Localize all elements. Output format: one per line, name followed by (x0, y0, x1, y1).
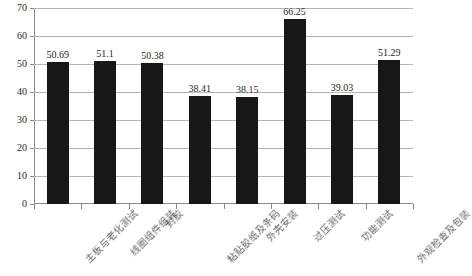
x-axis-category-label: 外观检查及包装 (415, 208, 472, 265)
bar (189, 96, 211, 204)
y-axis-tick-label: 70 (17, 3, 27, 13)
bar-group: 39.03 (318, 8, 365, 204)
bar (378, 60, 400, 204)
bar-value-label: 38.15 (236, 84, 259, 95)
x-axis-category-label: 功能测试 (359, 208, 394, 243)
bar (94, 61, 116, 204)
bar-value-label: 66.25 (283, 6, 306, 17)
y-axis-tick-label: 0 (22, 199, 27, 209)
bar-value-label: 50.38 (141, 50, 164, 61)
bar (331, 95, 353, 204)
bar-value-label: 50.69 (46, 49, 69, 60)
y-axis-tick-label: 60 (17, 31, 27, 41)
bar-group: 38.41 (176, 8, 223, 204)
bar-value-label: 38.41 (189, 83, 212, 94)
x-axis-category-label: 过压测试 (312, 208, 347, 243)
y-axis-tick-label: 50 (17, 59, 27, 69)
bar-group: 50.69 (34, 8, 81, 204)
bar-group: 66.25 (271, 8, 318, 204)
bar (236, 97, 258, 204)
bar (284, 19, 306, 205)
bar-group: 50.38 (129, 8, 176, 204)
bar (141, 63, 163, 204)
y-axis-tick-label: 40 (17, 87, 27, 97)
bar-value-label: 51.29 (378, 47, 401, 58)
bars-layer: 50.6951.150.3838.4138.1566.2539.0351.29 (34, 8, 413, 204)
x-axis-labels: 主板与老化测试线圈组件组装封胶粘贴胶纸及条码外壳安装过压测试功能测试外观检查及包… (34, 204, 413, 276)
y-axis-tick-label: 20 (17, 143, 27, 153)
bar-value-label: 39.03 (331, 82, 354, 93)
bar-value-label: 51.1 (96, 48, 114, 59)
bar (47, 62, 69, 204)
y-axis-tick-label: 30 (17, 115, 27, 125)
x-axis-category-label: 主板与老化测试 (84, 208, 141, 265)
x-axis-tick (413, 204, 414, 209)
bar-group: 51.1 (81, 8, 128, 204)
bar-group: 51.29 (366, 8, 413, 204)
plot-area: 010203040506070 50.6951.150.3838.4138.15… (34, 8, 413, 204)
bar-group: 38.15 (224, 8, 271, 204)
y-axis-tick-label: 10 (17, 171, 27, 181)
